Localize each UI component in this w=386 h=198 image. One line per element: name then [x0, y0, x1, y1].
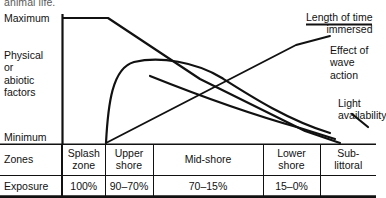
cell-line-2: littoral: [334, 159, 362, 171]
cell-line-1: Lower: [277, 147, 306, 159]
cell-exposure-upper-shore: 90–70%: [105, 176, 153, 198]
cell-line-1: Sub-: [337, 147, 359, 159]
curve-light-availability: [150, 76, 335, 139]
cell-line-1: Splash: [68, 147, 100, 159]
cell-line-2: shore: [278, 159, 304, 171]
cell-zone-mid-shore: Mid-shore: [153, 145, 263, 176]
cell-zone-splash: Splash zone: [62, 145, 105, 176]
cell-line-1: Upper: [115, 147, 144, 159]
curve-exposure: [63, 18, 340, 143]
table-row: Exposure 100% 90–70% 70–15% 15–0%: [0, 176, 376, 198]
cell-zone-upper-shore: Upper shore: [105, 145, 153, 176]
zonation-table: Zones Splash zone Upper shore Mid-shore …: [0, 145, 376, 197]
row-header-zones: Zones: [0, 145, 62, 176]
row-header-exposure: Exposure: [0, 176, 62, 198]
cell-line-2: zone: [72, 159, 95, 171]
table-row: Zones Splash zone Upper shore Mid-shore …: [0, 145, 376, 176]
cell-exposure-sub-littoral: [320, 176, 376, 198]
cell-exposure-splash: 100%: [62, 176, 105, 198]
cell-line-1: Mid-shore: [185, 153, 232, 165]
cell-exposure-lower-shore: 15–0%: [263, 176, 320, 198]
cell-exposure-mid-shore: 70–15%: [153, 176, 263, 198]
cell-zone-lower-shore: Lower shore: [263, 145, 320, 176]
curve-light-availability-tail: [352, 114, 368, 127]
cell-line-2: shore: [116, 159, 142, 171]
cell-zone-sub-littoral: Sub- littoral: [320, 145, 376, 176]
